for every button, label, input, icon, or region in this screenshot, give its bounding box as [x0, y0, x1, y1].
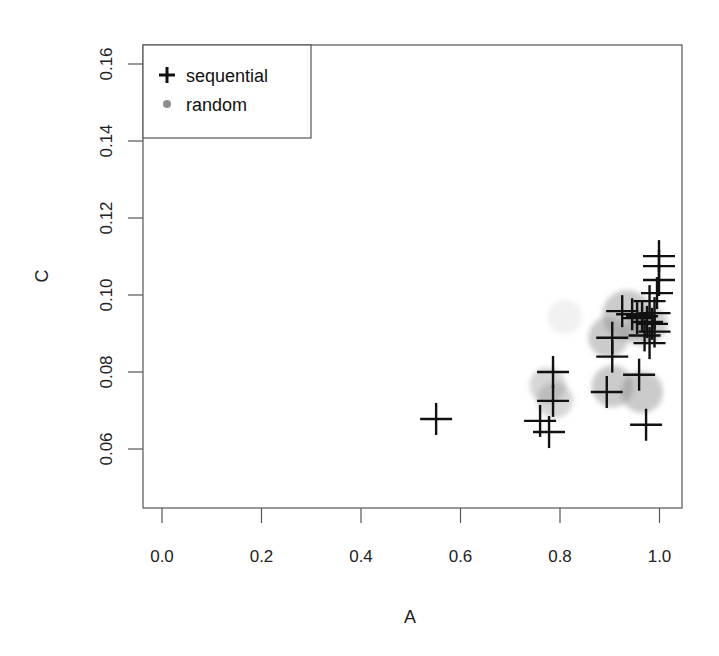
y-axis-title: C: [32, 270, 52, 283]
x-axis-title: A: [404, 607, 416, 627]
dot-marker-icon: [163, 100, 171, 108]
y-tick-label: 0.12: [97, 201, 116, 234]
data-point-random: [621, 371, 663, 413]
legend-label-sequential: sequential: [186, 66, 268, 86]
x-tick-label: 0.8: [548, 547, 572, 566]
x-tick-label: 1.0: [648, 547, 672, 566]
y-tick-label: 0.08: [97, 355, 116, 388]
legend: sequential random: [143, 45, 311, 138]
legend-label-random: random: [186, 95, 247, 115]
data-point-random: [548, 300, 582, 334]
y-tick-label: 0.10: [97, 278, 116, 311]
scatter-chart: 0.00.20.40.60.81.0 0.060.080.100.120.140…: [0, 0, 719, 656]
x-tick-label: 0.0: [150, 547, 174, 566]
x-tick-label: 0.2: [250, 547, 274, 566]
y-tick-label: 0.06: [97, 432, 116, 465]
y-tick-label: 0.14: [97, 124, 116, 157]
legend-box: [143, 45, 311, 138]
x-tick-label: 0.6: [449, 547, 473, 566]
x-tick-label: 0.4: [349, 547, 373, 566]
y-tick-label: 0.16: [97, 47, 116, 80]
